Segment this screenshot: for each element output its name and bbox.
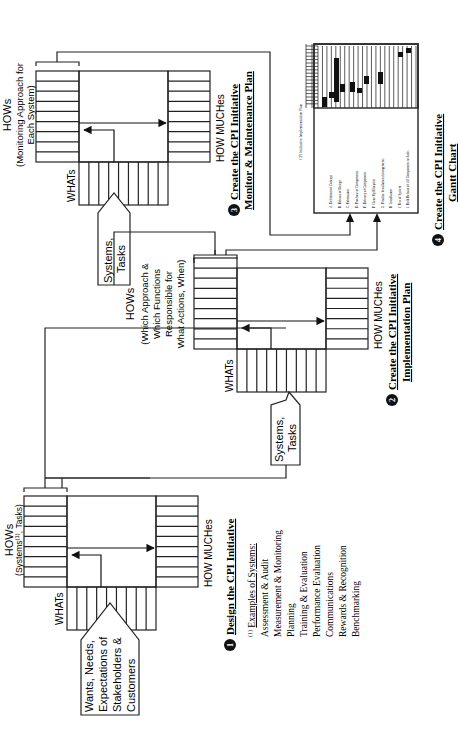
stage1-how-muches-strip <box>156 496 198 587</box>
svg-text:Systems,: Systems, <box>102 238 114 283</box>
stage1-relationship-matrix <box>67 496 156 587</box>
gantt-task-label: G. Finalize Installation Arrangements <box>381 158 385 208</box>
gantt-bar <box>340 84 345 92</box>
svg-text:1: 1 <box>226 643 235 647</box>
gantt-bar <box>334 58 339 102</box>
gantt-task-label: F. Clean Up Blueprint <box>372 179 376 208</box>
gantt-bar <box>322 97 327 107</box>
stage2-hows-subtitle: (Which Approach & Which Functions Respon… <box>139 260 186 349</box>
svg-text:(Monitoring Approach for: (Monitoring Approach for <box>14 63 25 167</box>
system-example-item: Planning <box>286 603 296 637</box>
svg-text:Expectations of: Expectations of <box>97 636 109 712</box>
svg-text:3: 3 <box>230 208 239 212</box>
gantt-bar <box>329 92 334 98</box>
stage1-whats-arrow <box>72 555 101 587</box>
stage2-how-muches-label: HOW MUCHes <box>373 281 384 349</box>
gantt-arrow-2 <box>373 213 381 222</box>
gantt-task-label: I. Test of System <box>398 185 402 208</box>
gantt-bar <box>350 82 355 92</box>
gantt-task-label: H. Installation <box>389 189 393 208</box>
svg-text:Tasks: Tasks <box>115 244 127 273</box>
gantt-bar <box>406 48 411 53</box>
system-example-item: Rewards & Recognition <box>338 545 348 637</box>
svg-text:Systems,: Systems, <box>273 417 285 462</box>
stage3-how-muches-label: HOW MUCHes <box>215 94 226 162</box>
svg-text:Each System): Each System) <box>25 85 36 144</box>
stage3-whats-arrow <box>84 130 114 162</box>
stage2-step-title-line2: Implementation Plan <box>400 283 412 382</box>
gantt-title: CPI Initiative Implementation Plan <box>298 104 303 160</box>
gantt-bar <box>364 76 369 84</box>
gantt-bar <box>378 72 383 84</box>
svg-text:2: 2 <box>388 398 397 402</box>
stage1-bracket <box>24 488 67 492</box>
gantt-task-label: A. Definition of Concept <box>329 175 333 208</box>
system-example-item: Measurement & Monitoring <box>273 530 283 637</box>
gantt-task-label: C. Fabrication <box>346 189 350 208</box>
stage2-step-label: 2 Create the CPI Initiative Implementati… <box>386 274 412 406</box>
stage4-step-title-line1: Create the CPI Initiative <box>432 114 444 230</box>
gantt-task-label: D. Purchase of Components <box>355 170 359 208</box>
svg-text:Customers: Customers <box>125 658 137 712</box>
svg-text:Which Functions: Which Functions <box>151 269 162 339</box>
stage2-whats-label: WHATs <box>224 359 235 392</box>
gantt-bar <box>398 52 403 57</box>
gantt-arrow-1 <box>346 213 354 222</box>
svg-text:What Actions, When): What Actions, When) <box>175 260 186 349</box>
svg-text:Stakeholders &: Stakeholders & <box>111 637 123 712</box>
gantt-task-label: E. Delivery of Components <box>363 171 367 208</box>
stage3-bracket <box>36 62 79 66</box>
system-example-item: Benchmarking <box>351 581 361 637</box>
stage3-step-label: 3 Create the CPI Initiative Monitor & Ma… <box>228 71 254 216</box>
stage1-whats-label: WHATs <box>54 592 65 625</box>
svg-text:(Which Approach &: (Which Approach & <box>139 263 150 345</box>
stage3-relationship-matrix <box>79 71 168 162</box>
stage1-step-label: 1 Design the CPI Initiative <box>224 518 236 651</box>
system-example-item: Performance Evaluation <box>312 545 322 637</box>
stage4-step-label: 4 Create the CPI Initiative Gantt Chart <box>432 114 458 246</box>
stage3-whats-strip <box>79 162 168 205</box>
cpi-diagram: HOWs (Systems(1), Tasks) WHATs HOW MUCHe… <box>0 0 458 743</box>
stage2-matrix <box>194 255 368 392</box>
stage3-hows-title: HOWs <box>1 98 13 131</box>
stage2-hows-strip <box>194 258 237 349</box>
stage1-hows-strip <box>24 496 67 587</box>
gantt-task-label: J. Bulk Release of All Components to Sal… <box>406 150 410 208</box>
stage3-hows-subtitle: (Monitoring Approach for Each System) <box>14 63 36 167</box>
svg-text:Wants, Needs,: Wants, Needs, <box>83 640 95 712</box>
svg-text:Responsible for: Responsible for <box>163 271 174 337</box>
stage4-step-title-line2: Gantt Chart <box>446 143 458 202</box>
stage3-step-title-line1: Create the CPI Initiative <box>228 84 240 200</box>
stage3-whats-label: WHATs <box>66 169 77 202</box>
stage3-how-muches-strip <box>168 71 210 162</box>
stage1-step-title: Design the CPI Initiative <box>224 518 236 635</box>
stage1-hows-subtitle: (Systems(1), Tasks) <box>14 504 24 576</box>
system-example-item: Training & Evaluation <box>299 551 309 637</box>
svg-text:4: 4 <box>434 238 443 242</box>
gantt-bar <box>357 88 362 93</box>
stage3-hows-strip <box>36 71 79 162</box>
stage3-matrix <box>36 62 210 205</box>
stage2-hows-title: HOWs <box>124 287 136 320</box>
stage2-whats-strip <box>237 349 326 392</box>
system-example-item: Communications <box>325 572 335 637</box>
system-example-item: Assessment & Audit <box>260 559 270 637</box>
stage1-how-muches-label: HOW MUCHes <box>203 519 214 587</box>
gantt-task-label: B. Release of Design <box>338 180 342 208</box>
stage2-relationship-matrix <box>237 268 326 349</box>
stage2-whats-arrow <box>242 328 271 349</box>
stage3-step-title-line2: Monitor & Maintenance Plan <box>242 71 254 210</box>
systems-examples: (1) Examples of Systems: Assessment & Au… <box>247 530 361 637</box>
stage2-step-title-line1: Create the CPI Initiative <box>386 274 398 390</box>
svg-text:Tasks: Tasks <box>286 423 298 452</box>
examples-header: (1) Examples of Systems: <box>247 543 257 637</box>
